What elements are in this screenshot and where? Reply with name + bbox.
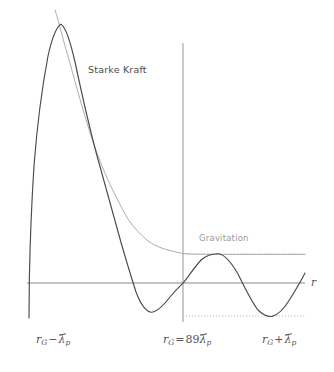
starke-kraft-curve — [29, 24, 305, 318]
x-tick-right-operator: + — [273, 333, 284, 346]
x-tick-center-operator: = — [174, 333, 185, 346]
x-tick-center: rG=89λp — [163, 334, 211, 347]
x-tick-right: rG+λp — [262, 334, 296, 347]
gravitation-curve — [55, 10, 305, 254]
x-tick-left-operator: − — [47, 333, 58, 346]
x-tick-left-symbol-sub: p — [65, 338, 70, 347]
gravitation-label: Gravitation — [199, 234, 249, 243]
x-tick-left: rG−λp — [36, 334, 70, 347]
x-tick-left-lambda: λ — [58, 334, 65, 345]
starke-kraft-label: Starke Kraft — [88, 65, 147, 75]
axis-label-r: r — [311, 277, 316, 288]
x-tick-right-lambda: λ — [284, 334, 291, 345]
x-tick-center-coefficient: 89 — [185, 333, 199, 346]
x-tick-center-lambda: λ — [199, 334, 206, 345]
plot-canvas — [0, 0, 334, 372]
x-tick-center-symbol-sub: p — [206, 338, 211, 347]
physics-force-plot-figure: Starke Kraft Gravitation r rG−λp rG=89λp… — [0, 0, 334, 372]
x-tick-right-symbol-sub: p — [291, 338, 296, 347]
